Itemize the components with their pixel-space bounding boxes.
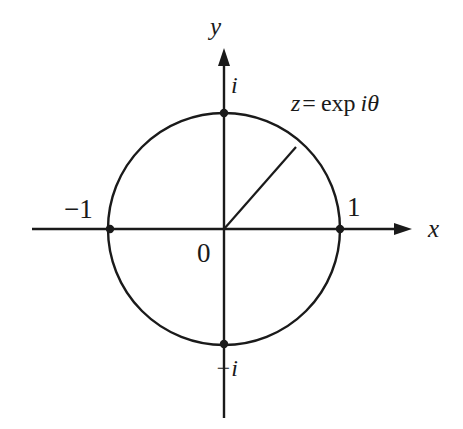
point-label-one-negative: −1 bbox=[64, 196, 93, 223]
y-axis-label: y bbox=[210, 14, 221, 39]
x-axis-label: x bbox=[428, 216, 439, 241]
origin-label: 0 bbox=[197, 240, 211, 267]
radius-to-z-line bbox=[224, 147, 296, 229]
exp-word: exp bbox=[321, 90, 356, 116]
y-axis-arrowhead-icon bbox=[218, 48, 230, 66]
point-label-i-positive: i bbox=[231, 73, 238, 97]
z-symbol: z bbox=[291, 90, 300, 116]
point-i-positive-dot bbox=[220, 109, 228, 117]
point-one-positive-dot bbox=[336, 225, 344, 233]
complex-plane-figure: y x i −i −1 1 0 z=expiθ bbox=[0, 0, 463, 429]
equals-sign: = bbox=[302, 90, 316, 116]
x-axis-arrowhead-icon bbox=[394, 223, 412, 235]
z-expression-annotation: z=expiθ bbox=[291, 91, 379, 115]
theta-symbol: θ bbox=[367, 90, 379, 116]
point-one-negative-dot bbox=[106, 225, 114, 233]
point-label-one-positive: 1 bbox=[347, 194, 361, 221]
point-i-negative-dot bbox=[220, 340, 228, 348]
point-label-i-negative: −i bbox=[215, 356, 238, 380]
